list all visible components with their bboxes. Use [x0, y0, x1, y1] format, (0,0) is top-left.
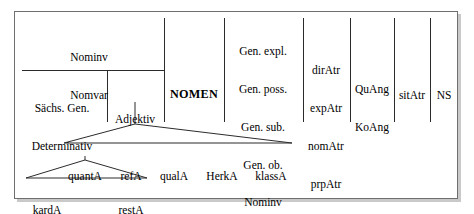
tree-node-quanta-label: quantA	[68, 170, 102, 183]
nomen-head: NOMEN	[170, 63, 218, 126]
tree-node-resta: restA	[119, 179, 144, 214]
tree-node-quala-label: qualA	[160, 170, 188, 183]
nomen-label: NOMEN	[170, 88, 218, 101]
genitiv-line-0: Gen. expl.	[239, 45, 287, 58]
ang-line-0: QuAng	[355, 83, 389, 96]
adjektiv-label: Adjektiv	[115, 113, 155, 126]
ns-line-0: NS	[437, 89, 452, 102]
tree-node-herka-label: HerkA	[206, 170, 237, 183]
ang-line-1: KoAng	[355, 121, 389, 134]
tree-node-herka: HerkA	[206, 145, 237, 208]
ns-column: NS	[437, 64, 452, 127]
ang-column: QuAng KoAng	[355, 58, 389, 159]
atr-column: dirAtr expAtr nomAtr prpAtr	[308, 39, 344, 214]
tree-node-quala: qualA	[160, 145, 188, 208]
upper-left-line-0: Nominv	[70, 51, 108, 64]
sitatr-line-0: sitAtr	[399, 89, 425, 102]
atr-line-3: prpAtr	[308, 178, 344, 191]
lower-left-line-0: Sächs. Gen.	[32, 102, 93, 115]
tree-node-klassa: klassA	[255, 145, 286, 208]
tree-node-quanta: quantA	[68, 145, 102, 208]
genitiv-line-1: Gen. poss.	[239, 83, 287, 96]
sitatr-column: sitAtr	[399, 64, 425, 127]
diagram-canvas: Nominv Nomvar Sächs. Gen. Determinativ A…	[0, 0, 474, 214]
atr-line-0: dirAtr	[308, 64, 344, 77]
genitiv-line-2: Gen. sub.	[239, 121, 287, 134]
atr-line-2: nomAtr	[308, 140, 344, 153]
tree-node-karda-label: kardA	[33, 204, 62, 214]
tree-node-resta-label: restA	[119, 204, 144, 214]
tree-node-karda: kardA	[33, 179, 62, 214]
tree-node-klassa-label: klassA	[255, 170, 286, 183]
atr-line-1: expAtr	[308, 102, 344, 115]
adjektiv-cell: Adjektiv	[115, 88, 155, 151]
